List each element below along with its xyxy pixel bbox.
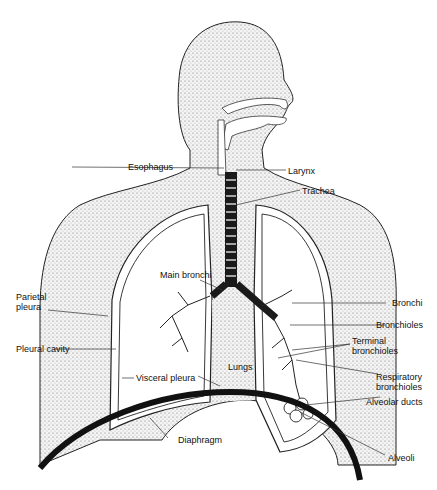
label-larynx: Larynx	[288, 166, 315, 176]
label-visceral-pleura: Visceral pleura	[136, 373, 195, 383]
label-respiratory-bronchioles-2: bronchioles	[376, 382, 422, 392]
label-parietal-pleura-1: Parietal	[16, 292, 47, 302]
label-parietal-pleura-2: pleura	[16, 302, 41, 312]
label-terminal-bronchioles-1: Terminal	[352, 336, 386, 346]
label-diaphragm: Diaphragm	[178, 435, 222, 445]
label-lungs: Lungs	[228, 362, 253, 372]
respiratory-diagram: Esophagus Larynx Trachea Main bronchi Br…	[0, 0, 437, 490]
label-alveolar-ducts: Alveolar ducts	[366, 397, 423, 407]
label-pleural-cavity: Pleural cavity	[16, 344, 70, 354]
label-alveoli: Alveoli	[388, 453, 415, 463]
label-esophagus: Esophagus	[128, 162, 173, 172]
label-bronchioles: Bronchioles	[376, 320, 423, 330]
anatomy-drawing	[0, 0, 437, 490]
trachea-shape	[225, 172, 237, 287]
label-main-bronchi: Main bronchi	[160, 270, 212, 280]
label-trachea: Trachea	[302, 186, 335, 196]
label-terminal-bronchioles-2: bronchioles	[352, 346, 398, 356]
label-bronchi: Bronchi	[392, 298, 423, 308]
label-respiratory-bronchioles-1: Respiratory	[376, 372, 422, 382]
